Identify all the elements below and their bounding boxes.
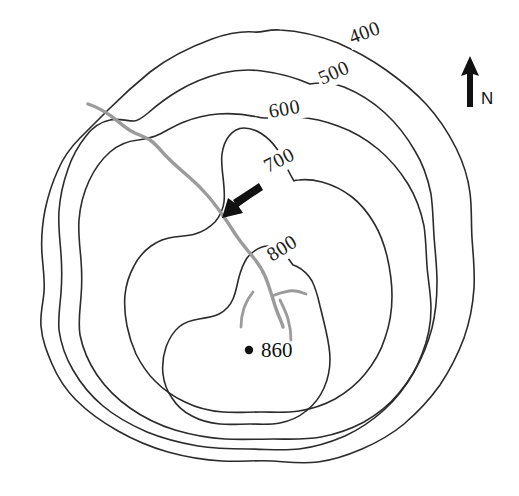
contour-line-400 — [41, 30, 474, 463]
direction-arrow — [222, 183, 263, 218]
summit-elevation-label: 860 — [261, 338, 293, 362]
contour-line-800 — [163, 246, 330, 424]
topographic-map: 400 500 600 700 800 860 N — [0, 0, 519, 496]
contour-label-group: 400 500 600 700 800 — [258, 13, 393, 268]
north-arrow-icon — [461, 56, 479, 107]
map-canvas: 400 500 600 700 800 860 N — [0, 0, 519, 496]
stream-tributary-left — [241, 292, 253, 327]
north-arrow: N — [461, 56, 493, 108]
stream-main-channel — [88, 104, 283, 327]
north-label: N — [481, 89, 493, 108]
contour-line-500 — [59, 70, 437, 450]
summit-dot — [245, 346, 253, 354]
contour-line-600 — [79, 114, 431, 440]
contour-line-700 — [125, 128, 392, 412]
stream-tributary-right — [272, 291, 306, 296]
